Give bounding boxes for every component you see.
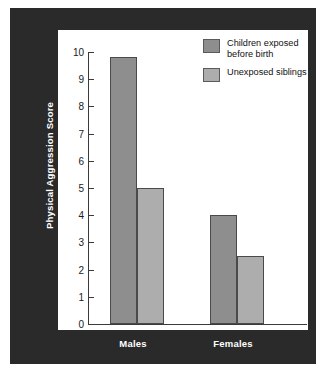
y-tick-label: 4 (58, 215, 84, 216)
legend-label: Unexposed siblings (227, 67, 307, 78)
x-axis-line (88, 324, 307, 325)
y-tick-mark (89, 215, 94, 216)
bar-females-series-1 (210, 215, 237, 324)
y-tick-label: 8 (58, 106, 84, 107)
y-tick-label: 9 (58, 79, 84, 80)
y-tick-label: 0 (58, 324, 84, 325)
y-tick-mark (89, 297, 94, 298)
y-axis-title: Physical Aggression Score (44, 81, 55, 251)
chart-frame: Physical Aggression Score Males Females … (10, 8, 316, 364)
y-tick-mark (89, 52, 94, 53)
y-tick-label: 1 (58, 297, 84, 298)
legend-label: Children exposed before birth (227, 38, 299, 60)
y-tick-label: 2 (58, 270, 84, 271)
y-tick-mark (89, 134, 94, 135)
y-tick-mark (89, 242, 94, 243)
chart-legend: Children exposed before birthUnexposed s… (203, 38, 324, 89)
y-tick-label: 6 (58, 161, 84, 162)
plot-canvas: 012345678910 Children exposed before bir… (58, 30, 308, 330)
chart-figure: Physical Aggression Score Males Females … (0, 0, 324, 372)
bar-males-series-2 (137, 188, 164, 324)
legend-item: Unexposed siblings (203, 67, 324, 82)
legend-item: Children exposed before birth (203, 38, 324, 60)
y-tick-mark (89, 79, 94, 80)
x-axis-category-label-females: Females (178, 338, 288, 349)
y-tick-label: 5 (58, 188, 84, 189)
x-axis-category-label-males: Males (78, 338, 188, 349)
bar-males-series-1 (110, 57, 137, 324)
legend-swatch-icon (203, 39, 220, 53)
bar-females-series-2 (237, 256, 264, 324)
y-tick-mark (89, 161, 94, 162)
y-tick-label: 7 (58, 134, 84, 135)
y-tick-mark (89, 324, 94, 325)
legend-swatch-icon (203, 68, 220, 82)
y-tick-label: 10 (58, 52, 84, 53)
y-tick-mark (89, 270, 94, 271)
y-tick-mark (89, 106, 94, 107)
y-tick-mark (89, 188, 94, 189)
y-tick-label: 3 (58, 242, 84, 243)
